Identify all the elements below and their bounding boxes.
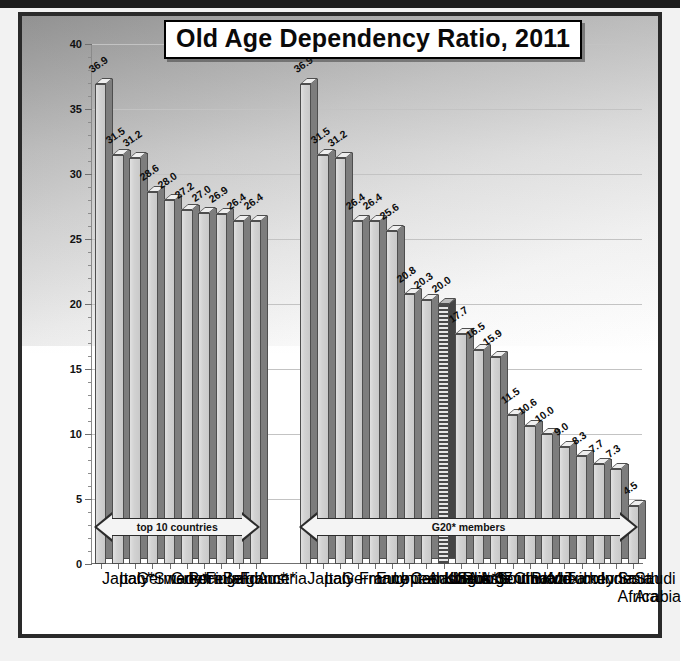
x-axis-tick — [513, 564, 514, 569]
plot-area: population above age 64 per 100 ages 15–… — [92, 44, 642, 564]
bar: 28.0 — [164, 200, 175, 564]
y-axis-minor-tick — [88, 252, 92, 253]
y-axis-minor-tick — [88, 213, 92, 214]
y-axis-tick-mark — [85, 304, 92, 305]
y-axis-tick-mark — [85, 44, 92, 45]
y-axis-minor-tick — [88, 330, 92, 331]
y-axis-minor-tick — [88, 460, 92, 461]
bar-side-face — [261, 216, 268, 559]
y-axis-minor-tick — [88, 343, 92, 344]
y-axis-minor-tick — [88, 83, 92, 84]
y-axis-minor-tick — [88, 525, 92, 526]
x-axis-tick — [118, 564, 119, 569]
x-axis-tick — [426, 564, 427, 569]
x-axis-tick — [135, 564, 136, 569]
x-axis-tick — [239, 564, 240, 569]
y-axis-minor-tick — [88, 408, 92, 409]
y-axis-minor-tick — [88, 382, 92, 383]
y-axis-tick-mark — [85, 434, 92, 435]
group-annotation-label: G20* members — [432, 521, 506, 533]
y-axis-minor-tick — [88, 148, 92, 149]
y-axis-minor-tick — [88, 161, 92, 162]
x-axis-tick — [101, 564, 102, 569]
bar: 31.5 — [317, 155, 328, 565]
y-axis-tick-mark — [85, 564, 92, 565]
x-axis-tick — [616, 564, 617, 569]
y-axis-minor-tick — [88, 473, 92, 474]
bar-front-face — [300, 84, 311, 564]
y-axis-minor-tick — [88, 187, 92, 188]
y-axis-minor-tick — [88, 538, 92, 539]
x-axis-tick — [187, 564, 188, 569]
bar-front-face — [147, 192, 158, 564]
x-axis-tick — [256, 564, 257, 569]
x-axis-tick — [392, 564, 393, 569]
page-top-edge — [0, 0, 680, 8]
x-axis-tick — [530, 564, 531, 569]
x-axis-tick — [204, 564, 205, 569]
x-axis-tick — [323, 564, 324, 569]
bar-front-face — [164, 200, 175, 564]
x-axis-tick — [306, 564, 307, 569]
y-axis-minor-tick — [88, 512, 92, 513]
x-axis-tick — [340, 564, 341, 569]
y-axis-minor-tick — [88, 447, 92, 448]
y-axis-minor-tick — [88, 356, 92, 357]
y-axis-minor-tick — [88, 486, 92, 487]
arrow-head-left-icon — [299, 512, 317, 542]
x-axis-tick — [547, 564, 548, 569]
bar-front-face — [181, 210, 192, 564]
x-axis-tick — [152, 564, 153, 569]
bar-front-face — [129, 158, 140, 564]
y-axis-minor-tick — [88, 265, 92, 266]
bar: 10.6 — [524, 426, 535, 564]
bar: 28.6 — [147, 192, 158, 564]
x-axis-tick — [582, 564, 583, 569]
bar-side-face — [639, 501, 646, 560]
arrow-head-right-icon — [242, 512, 260, 542]
x-axis-tick — [495, 564, 496, 569]
arrow-head-right-icon — [620, 512, 638, 542]
y-axis-minor-tick — [88, 278, 92, 279]
bar-front-face — [576, 456, 587, 564]
x-axis-category-label: Saudi Arabia — [635, 570, 681, 606]
x-axis-tick — [599, 564, 600, 569]
group-annotation-arrow: G20* members — [299, 512, 638, 542]
y-axis-tick-mark — [85, 109, 92, 110]
y-axis-minor-tick — [88, 317, 92, 318]
bar: 27.2 — [181, 210, 192, 564]
x-axis-tick — [358, 564, 359, 569]
x-axis-category-label: Austria — [257, 570, 307, 588]
x-axis-tick — [375, 564, 376, 569]
arrow-head-left-icon — [94, 512, 112, 542]
y-axis-minor-tick — [88, 200, 92, 201]
y-axis-tick-mark — [85, 499, 92, 500]
bar: 10.0 — [541, 434, 552, 564]
y-axis-minor-tick — [88, 551, 92, 552]
y-axis-minor-tick — [88, 395, 92, 396]
bar-front-face — [559, 447, 570, 564]
bar-front-face — [317, 155, 328, 565]
y-axis-tick-mark — [85, 369, 92, 370]
y-axis-minor-tick — [88, 122, 92, 123]
chart-frame: Old Age Dependency Ratio, 2011 populatio… — [18, 12, 662, 638]
y-axis-minor-tick — [88, 291, 92, 292]
bar: 9.0 — [559, 447, 570, 564]
y-axis-minor-tick — [88, 135, 92, 136]
x-axis-tick — [170, 564, 171, 569]
bar: 31.2 — [129, 158, 140, 564]
bar-value-label: 26.4 — [241, 190, 265, 212]
bar-front-face — [335, 158, 346, 564]
x-axis-tick — [221, 564, 222, 569]
chart-title-text: Old Age Dependency Ratio, 2011 — [176, 24, 570, 52]
y-axis-minor-tick — [88, 96, 92, 97]
chart-title: Old Age Dependency Ratio, 2011 — [164, 20, 582, 59]
bar: 31.5 — [112, 155, 123, 565]
bar: 36.9 — [300, 84, 311, 564]
y-axis-tick-mark — [85, 174, 92, 175]
bar-front-face — [112, 155, 123, 565]
bar: 31.2 — [335, 158, 346, 564]
bar-front-face — [541, 434, 552, 564]
x-axis-tick — [444, 564, 445, 569]
